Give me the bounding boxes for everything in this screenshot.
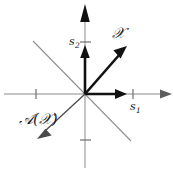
s1-axis-label-subscript: 1 <box>136 106 141 115</box>
ax-vector-label: 𝒜(𝒳) <box>19 110 58 128</box>
diagram-canvas: 𝒳 𝒜(𝒳) s 2 s 1 <box>0 0 173 172</box>
s2-axis-label-subscript: 2 <box>74 41 80 50</box>
figure-background <box>0 0 173 172</box>
vector-diagram-figure: 𝒳 𝒜(𝒳) s 2 s 1 <box>0 0 173 172</box>
